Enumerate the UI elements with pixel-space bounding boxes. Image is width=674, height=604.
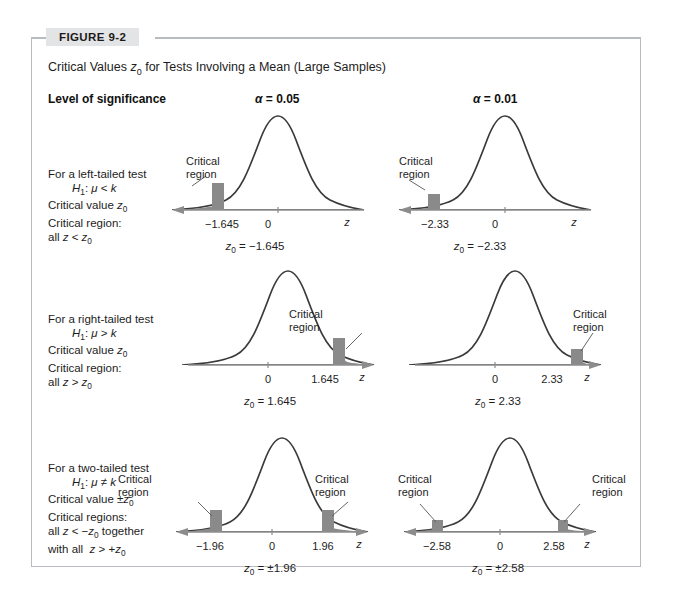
z0-equation-r1c2: z0 = −2.33 [410, 240, 550, 255]
axis-label-r3c1: z [352, 538, 366, 550]
critical-region-label-r3c2-right: Criticalregion [592, 473, 626, 498]
critical-region-label-r3c1-left: Criticalregion [118, 473, 152, 498]
z-tick-label-r3c2-pos: 2.58 [534, 540, 574, 552]
figure-title: Critical Values z0 for Tests Involving a… [48, 60, 386, 77]
leader-line [581, 333, 593, 351]
row-description-left-tailed: For a left-tailed test H1: μ < k Critica… [48, 168, 146, 249]
z0-equation-r3c2: z0 = ±2.58 [428, 562, 568, 577]
column-header-alpha-001: α = 0.01 [473, 92, 517, 106]
axis-arrow-right [362, 361, 374, 369]
z-tick-label-r2c2: 2.33 [530, 373, 574, 385]
z-tick-label-r3c1-neg: −1.96 [185, 540, 235, 552]
axis-arrow-left [399, 206, 411, 214]
z-tick-label-r3c1-pos: 1.96 [303, 540, 343, 552]
axis-arrow-right [584, 528, 596, 536]
axis-label-r1c2: z [567, 216, 581, 228]
column-header-alpha-005: α = 0.05 [255, 92, 299, 106]
leader-line [409, 180, 425, 190]
zero-tick-label-r3c2: 0 [490, 540, 510, 552]
axis-arrow-left [404, 528, 416, 536]
normal-curve [182, 271, 374, 365]
level-of-significance-label: Level of significance [48, 92, 166, 106]
axis-label-r2c2: z [580, 371, 594, 383]
leader-line-left [198, 502, 212, 516]
axis-arrow-left [172, 206, 184, 214]
z0-equation-r3c1: z0 = ±1.96 [200, 562, 340, 577]
leader-line-left [420, 504, 436, 522]
axis-arrow-right [589, 361, 601, 369]
zero-tick-label-r3c1: 0 [262, 540, 282, 552]
axis-label-r3c2: z [580, 538, 594, 550]
critical-region-label-r2c1: Criticalregion [289, 308, 323, 333]
z-tick-label-r3c2-neg: −2.58 [412, 540, 462, 552]
critical-region-label-r3c1-right: Criticalregion [315, 473, 349, 498]
zero-tick-label-r1c2: 0 [485, 218, 505, 230]
figure-tag: FIGURE 9-2 [46, 28, 139, 46]
leader-line [346, 333, 362, 349]
figure-tag-rule-right [155, 37, 641, 39]
critical-region-label-r1c2: Criticalregion [399, 155, 433, 180]
zero-tick-label-r2c1: 0 [258, 373, 278, 385]
z0-equation-r2c2: z0 = 2.33 [428, 395, 568, 410]
axis-label-r2c1: z [355, 371, 369, 383]
critical-region-label-r1c1: Criticalregion [186, 155, 220, 180]
zero-tick-label-r2c2: 0 [485, 373, 505, 385]
leader-line-right [564, 504, 580, 522]
zero-tick-label-r1c1: 0 [258, 218, 278, 230]
figure-tag-rule-left [31, 37, 46, 39]
leader-line-right [332, 502, 348, 516]
critical-region-label-r2c2: Criticalregion [573, 308, 607, 333]
z-tick-label-r2c1: 1.645 [300, 373, 350, 385]
z-tick-label-r1c1: −1.645 [192, 218, 252, 230]
z0-equation-r1c1: z0 = −1.645 [185, 240, 325, 255]
z0-equation-r2c1: z0 = 1.645 [200, 395, 340, 410]
axis-arrow-left [176, 528, 188, 536]
axis-label-r1c1: z [340, 216, 354, 228]
z-tick-label-r1c2: −2.33 [405, 218, 465, 230]
curve-panel-right-tailed-005 [178, 265, 378, 375]
axis-arrow-right [356, 528, 368, 536]
row-description-right-tailed: For a right-tailed test H1: μ > k Critic… [48, 313, 153, 394]
critical-region-label-r3c2-left: Criticalregion [398, 473, 432, 498]
